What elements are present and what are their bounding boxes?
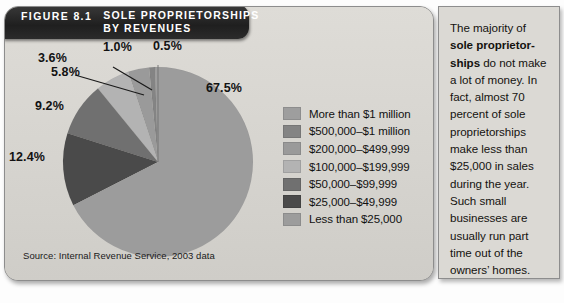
- legend-item: Less than $25,000: [283, 211, 411, 229]
- legend-swatch: [283, 125, 301, 138]
- pie-label-9-2: 9.2%: [35, 99, 64, 113]
- legend-item: $100,000–$199,999: [283, 158, 411, 176]
- legend-label: Less than $25,000: [309, 213, 402, 225]
- legend-swatch: [283, 178, 301, 191]
- legend-label: $50,000–$99,999: [309, 178, 397, 190]
- legend-swatch: [283, 107, 301, 120]
- legend-label: $500,000–$1 million: [309, 125, 410, 137]
- legend-label: $200,000–$499,999: [309, 143, 410, 155]
- legend-item: $25,000–$49,999: [283, 193, 411, 211]
- figure-panel: FIGURE 8.1 SOLE PROPRIETORSHIPS BY REVEN…: [4, 6, 434, 281]
- figure-title-line1: SOLE PROPRIETORSHIPS: [103, 9, 259, 21]
- figure-title: SOLE PROPRIETORSHIPS BY REVENUES: [103, 9, 259, 35]
- legend-swatch: [283, 142, 301, 155]
- figure-root: FIGURE 8.1 SOLE PROPRIETORSHIPS BY REVEN…: [0, 0, 564, 303]
- legend-swatch: [283, 195, 301, 208]
- side-note-rest: do not make a lot of money. In fact, alm…: [450, 56, 546, 277]
- side-note-text: The majority of sole proprietor-ships do…: [450, 19, 549, 278]
- figure-title-line2: BY REVENUES: [103, 22, 259, 35]
- pie-label-12-4: 12.4%: [9, 150, 45, 164]
- source-note: Source: Internal Revenue Service, 2003 d…: [23, 250, 215, 261]
- legend-label: More than $1 million: [309, 108, 411, 120]
- legend-item: $200,000–$499,999: [283, 140, 411, 158]
- side-note-panel: The majority of sole proprietor-ships do…: [438, 6, 560, 279]
- pie-label-1-0: 1.0%: [103, 40, 132, 54]
- pie-label-3-6: 3.6%: [38, 51, 67, 65]
- legend-label: $25,000–$49,999: [309, 196, 397, 208]
- figure-number: FIGURE 8.1: [21, 9, 92, 23]
- side-note-lead: The majority of: [450, 21, 526, 34]
- pie-label-0-5: 0.5%: [153, 39, 182, 53]
- legend-item: $500,000–$1 million: [283, 123, 411, 141]
- chart-legend: More than $1 million$500,000–$1 million$…: [283, 105, 411, 228]
- pie-label-5-8: 5.8%: [51, 65, 80, 79]
- figure-title-banner: FIGURE 8.1 SOLE PROPRIETORSHIPS BY REVEN…: [4, 6, 249, 39]
- legend-label: $100,000–$199,999: [309, 161, 410, 173]
- legend-item: More than $1 million: [283, 105, 411, 123]
- pie-label-67-5: 67.5%: [206, 81, 242, 95]
- legend-swatch: [283, 160, 301, 173]
- legend-swatch: [283, 213, 301, 226]
- pie-chart: 67.5% 12.4% 9.2% 5.8% 3.6% 1.0% 0.5%: [13, 37, 313, 267]
- legend-item: $50,000–$99,999: [283, 175, 411, 193]
